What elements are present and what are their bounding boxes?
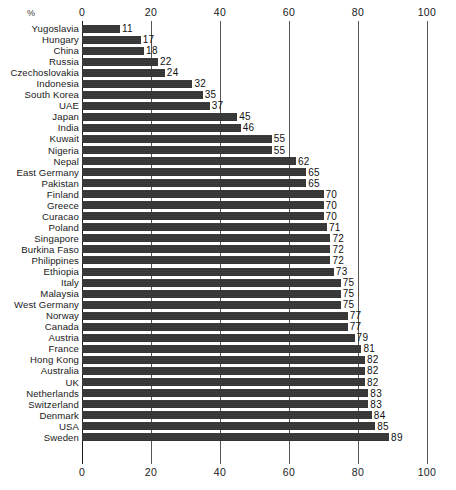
bar bbox=[82, 400, 368, 408]
bar-value-label: 18 bbox=[146, 45, 158, 56]
bar-category-label: Yugoslavia bbox=[0, 23, 79, 34]
bar bbox=[82, 411, 372, 419]
bar-value-label: 77 bbox=[350, 321, 362, 332]
bar-category-label: Philippines bbox=[0, 255, 79, 266]
bar-value-label: 65 bbox=[308, 178, 320, 189]
bar bbox=[82, 256, 330, 264]
bar-category-label: Greece bbox=[0, 200, 79, 211]
bar bbox=[82, 433, 389, 441]
axis-bottom: 020406080100 bbox=[0, 466, 456, 480]
bar bbox=[82, 25, 120, 33]
bar-category-label: Austria bbox=[0, 332, 79, 343]
bar-category-label: France bbox=[0, 343, 79, 354]
bar-row: Czechoslovakia24 bbox=[0, 67, 456, 78]
bar bbox=[82, 80, 192, 88]
bar-row: Malaysia75 bbox=[0, 288, 456, 299]
bar-category-label: China bbox=[0, 45, 79, 56]
bar-category-label: West Germany bbox=[0, 299, 79, 310]
axis-tick-label-bottom-60: 60 bbox=[283, 466, 295, 478]
bar-category-label: Malaysia bbox=[0, 288, 79, 299]
axis-tick-label-top-80: 80 bbox=[352, 6, 364, 18]
bar-category-label: Netherlands bbox=[0, 388, 79, 399]
axis-tick-label-bottom-100: 100 bbox=[418, 466, 437, 478]
bar-value-label: 82 bbox=[367, 365, 379, 376]
bar-row: Curacao70 bbox=[0, 211, 456, 222]
bar-category-label: Canada bbox=[0, 321, 79, 332]
bar-row: India46 bbox=[0, 122, 456, 133]
bar bbox=[82, 146, 272, 154]
bar-value-label: 75 bbox=[343, 299, 355, 310]
bar-row: Singapore72 bbox=[0, 233, 456, 244]
bar-value-label: 37 bbox=[212, 100, 224, 111]
bar-row: Japan45 bbox=[0, 111, 456, 122]
bar-value-label: 77 bbox=[350, 310, 362, 321]
bar-value-label: 81 bbox=[363, 343, 375, 354]
bar bbox=[82, 345, 361, 353]
bar-category-label: Australia bbox=[0, 365, 79, 376]
axis-tick-label-top-100: 100 bbox=[418, 6, 437, 18]
bar-value-label: 83 bbox=[370, 388, 382, 399]
bar-value-label: 70 bbox=[326, 189, 338, 200]
bar bbox=[82, 268, 334, 276]
bar-category-label: Hong Kong bbox=[0, 354, 79, 365]
bar-value-label: 72 bbox=[332, 233, 344, 244]
bar-category-label: Sweden bbox=[0, 432, 79, 443]
bar-value-label: 70 bbox=[326, 211, 338, 222]
bar-category-label: Poland bbox=[0, 222, 79, 233]
bar bbox=[82, 135, 272, 143]
bar-category-label: India bbox=[0, 122, 79, 133]
bar-row: China18 bbox=[0, 45, 456, 56]
bar-value-label: 73 bbox=[336, 266, 348, 277]
bar-row: Burkina Faso72 bbox=[0, 244, 456, 255]
bar-category-label: Burkina Faso bbox=[0, 244, 79, 255]
bar bbox=[82, 223, 327, 231]
bar-value-label: 22 bbox=[160, 56, 172, 67]
bar bbox=[82, 47, 144, 55]
bar-value-label: 75 bbox=[343, 288, 355, 299]
bar bbox=[82, 69, 165, 77]
bar-row: South Korea35 bbox=[0, 89, 456, 100]
bar-value-label: 72 bbox=[332, 255, 344, 266]
bar-category-label: Nigeria bbox=[0, 145, 79, 156]
bar-row: Nigeria55 bbox=[0, 145, 456, 156]
bar bbox=[82, 212, 324, 220]
axis-tick-label-bottom-0: 0 bbox=[79, 466, 85, 478]
bar-row: Yugoslavia11 bbox=[0, 23, 456, 34]
bar bbox=[82, 279, 341, 287]
bar bbox=[82, 234, 330, 242]
bar bbox=[82, 102, 210, 110]
bar-row: France81 bbox=[0, 343, 456, 354]
bar bbox=[82, 58, 158, 66]
bar-row: Russia22 bbox=[0, 56, 456, 67]
bar-value-label: 62 bbox=[298, 156, 310, 167]
bar-row: Kuwait55 bbox=[0, 133, 456, 144]
bar bbox=[82, 124, 241, 132]
bar-row: Greece70 bbox=[0, 200, 456, 211]
bar-row: Austria79 bbox=[0, 332, 456, 343]
bar-category-label: East Germany bbox=[0, 167, 79, 178]
bar-value-label: 55 bbox=[274, 133, 286, 144]
bar bbox=[82, 201, 324, 209]
bar-category-label: South Korea bbox=[0, 89, 79, 100]
bar-category-label: Singapore bbox=[0, 233, 79, 244]
bar-category-label: Denmark bbox=[0, 410, 79, 421]
bar bbox=[82, 179, 306, 187]
bar-category-label: Russia bbox=[0, 56, 79, 67]
axis-tick-label-top-20: 20 bbox=[145, 6, 157, 18]
axis-tick-label-top-40: 40 bbox=[214, 6, 226, 18]
bar-row: Poland71 bbox=[0, 222, 456, 233]
axis-tick-label-bottom-20: 20 bbox=[145, 466, 157, 478]
bar-chart: % 020406080100 Yugoslavia11Hungary17Chin… bbox=[0, 0, 456, 490]
bar-row: Nepal62 bbox=[0, 156, 456, 167]
axis-tick-label-bottom-80: 80 bbox=[352, 466, 364, 478]
bar-row: Philippines72 bbox=[0, 255, 456, 266]
bar-value-label: 35 bbox=[205, 89, 217, 100]
bar-value-label: 79 bbox=[357, 332, 369, 343]
bar-category-label: UK bbox=[0, 377, 79, 388]
bar-row: Sweden89 bbox=[0, 432, 456, 443]
bar-category-label: USA bbox=[0, 421, 79, 432]
bar-row: Netherlands83 bbox=[0, 388, 456, 399]
bar-category-label: Curacao bbox=[0, 211, 79, 222]
bar bbox=[82, 334, 355, 342]
bar-row: West Germany75 bbox=[0, 299, 456, 310]
